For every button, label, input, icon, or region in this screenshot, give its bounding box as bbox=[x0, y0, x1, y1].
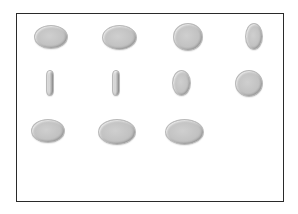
coin-5-image bbox=[46, 70, 54, 96]
coin-6-image bbox=[112, 70, 120, 96]
coin-4-image bbox=[245, 23, 263, 50]
coin-7-image bbox=[172, 70, 191, 96]
coin-1-image bbox=[34, 25, 68, 49]
coin-10-image bbox=[98, 119, 136, 145]
coin-2-image bbox=[102, 25, 137, 50]
coin-3-image bbox=[173, 23, 203, 51]
coin-9-image bbox=[31, 119, 65, 143]
coin-11-image bbox=[165, 119, 204, 145]
coin-8-image bbox=[235, 70, 263, 97]
